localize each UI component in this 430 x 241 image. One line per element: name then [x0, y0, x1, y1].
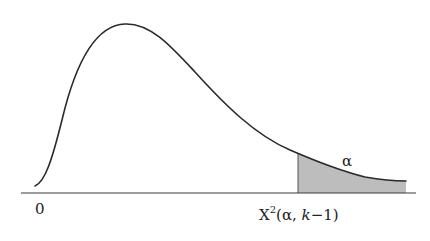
- critical-value-base: X: [259, 206, 270, 224]
- critical-value-label: X2(α, k−1): [259, 204, 339, 224]
- origin-label: 0: [35, 200, 45, 218]
- alpha-label: α: [342, 152, 352, 170]
- critical-value-args-prefix: (α,: [276, 206, 302, 224]
- critical-value-args-suffix: −1): [311, 206, 339, 224]
- chi-square-distribution-chart: 0 X2(α, k−1) α: [0, 0, 430, 241]
- critical-value-k: k: [302, 206, 311, 224]
